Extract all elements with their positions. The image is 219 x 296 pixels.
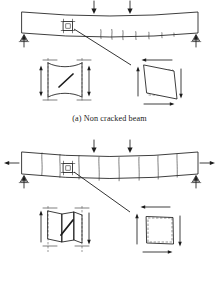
figure-b-canvas	[0, 134, 219, 296]
shear-arrow-right	[179, 69, 183, 99]
shear-arrow-bottom	[144, 102, 175, 106]
beam-outline	[22, 152, 198, 179]
detail-left-shear-element	[39, 58, 91, 102]
detail-right-undeformed-element	[135, 205, 182, 254]
point-load-2	[127, 140, 132, 153]
shear-arrow-left	[135, 214, 139, 245]
figure-a-non-cracked-beam: (a) Non cracked beam	[0, 0, 219, 132]
shear-arrow-bottom	[143, 250, 173, 254]
beam-outline	[22, 12, 198, 37]
stress-element-marker	[61, 19, 75, 33]
roller-support-right	[191, 176, 201, 189]
diagonal-crack	[59, 74, 73, 87]
point-load-1	[91, 140, 96, 153]
figure-a-caption: (a) Non cracked beam	[0, 114, 219, 123]
detail-left-arrow-left	[39, 66, 43, 97]
detail-left-arrow-right	[87, 66, 91, 97]
point-load-1	[91, 1, 96, 14]
stress-element-marker	[61, 161, 75, 175]
shear-arrow-top	[141, 205, 171, 209]
point-load-2	[127, 1, 132, 14]
detail-left-arrow-left	[39, 211, 43, 243]
shear-arrow-left	[136, 67, 140, 97]
detail-left-block-rotation	[39, 206, 91, 252]
diagonal-crack	[61, 220, 73, 235]
pin-support-left	[19, 176, 29, 189]
shear-arrow-top	[142, 58, 173, 62]
axial-arrow-right	[200, 161, 215, 165]
figure-sheet: (a) Non cracked beam	[0, 0, 219, 296]
detail-left-arrow-right	[87, 213, 91, 245]
roller-support-right	[191, 35, 201, 48]
axial-arrow-left	[4, 161, 19, 165]
figure-a-canvas	[0, 0, 219, 132]
shear-arrow-right	[178, 216, 182, 247]
pin-support-left	[19, 35, 29, 48]
figure-b-pre-cracked-beam: (a) Pre-cracked beam	[0, 134, 219, 296]
detail-right-shear-element	[136, 58, 183, 106]
